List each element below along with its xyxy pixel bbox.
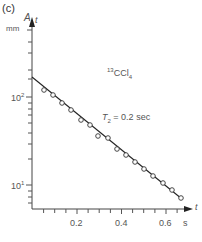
y-tick-label-100: 102 [11, 92, 24, 103]
x-axis-unit: s [183, 219, 188, 228]
x-tick-label-0.4: 0.4 [115, 219, 128, 228]
data-point [151, 174, 156, 179]
x-ticks [44, 209, 178, 214]
x-tick-label-0.2: 0.2 [70, 219, 83, 228]
data-point [60, 101, 65, 106]
sample-label: 13CCl4 [107, 67, 132, 80]
data-point [161, 181, 166, 186]
data-point [179, 196, 184, 201]
x-axis-symbol: t [195, 203, 198, 212]
data-point [170, 188, 175, 193]
x-axis-arrow-icon [184, 206, 193, 212]
t2-annotation: T2 = 0.2 sec [102, 113, 150, 124]
y-tick-label-10: 101 [11, 180, 24, 191]
y-ticks [26, 30, 32, 203]
data-point [69, 108, 74, 113]
data-points [42, 88, 184, 201]
data-point [96, 134, 101, 139]
data-point [42, 88, 47, 93]
panel-label: (c) [2, 3, 15, 14]
data-point [88, 123, 93, 128]
data-point [79, 118, 84, 123]
x-tick-label-0.6: 0.6 [159, 219, 172, 228]
y-axis-unit: mm [6, 25, 19, 33]
y-axis-symbol: A [24, 13, 31, 23]
data-point [124, 153, 129, 158]
data-point [51, 93, 56, 98]
y-axis-symbol-arg: t [35, 16, 38, 25]
plot-canvas [0, 0, 202, 242]
data-point [106, 136, 111, 141]
data-point [115, 147, 120, 152]
data-point [142, 167, 147, 172]
relaxation-decay-chart: (c) A t mm 102 101 0.2 0.4 0.6 s t 13CCl… [0, 0, 202, 242]
data-point [133, 160, 138, 165]
